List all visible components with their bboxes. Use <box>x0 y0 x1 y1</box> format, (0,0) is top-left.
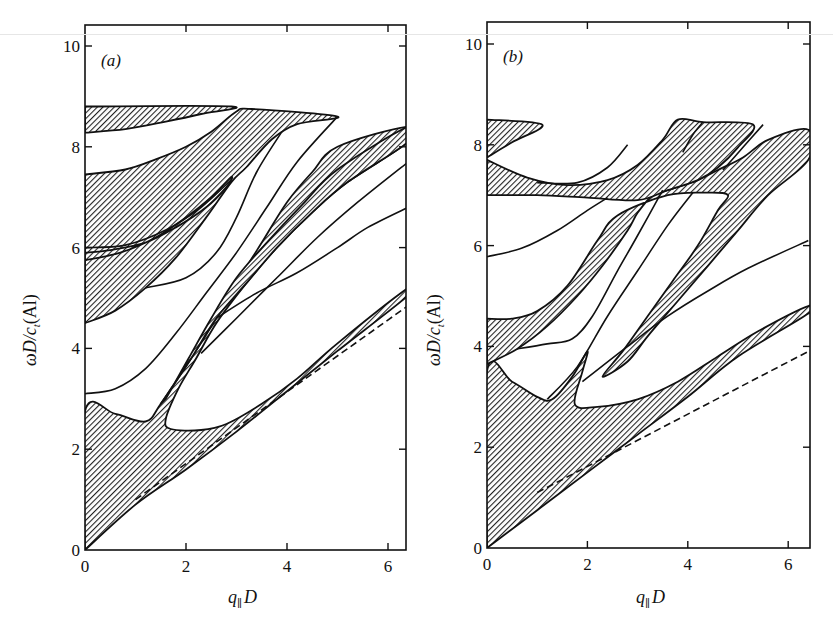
y-tick-label: 8 <box>474 136 483 155</box>
y-tick-label: 0 <box>72 541 81 560</box>
dispersion-curve <box>216 207 408 318</box>
y-tick-label: 6 <box>72 239 81 258</box>
y-tick-label: 2 <box>72 440 81 459</box>
panel-b-y-axis-label: ωD/ct(Al) <box>424 294 446 366</box>
x-tick-label: 4 <box>283 557 292 576</box>
dashed-bulk-line <box>136 306 409 500</box>
x-tick-label: 4 <box>684 555 693 574</box>
figure-svg: 02460246810 (a) q∥D ωD/ct(Al) 0246024681… <box>0 0 833 621</box>
x-tick-label: 0 <box>483 555 492 574</box>
x-tick-label: 2 <box>583 555 592 574</box>
panel-b: 02460246810 (b) q∥D ωD/ct(Al) <box>424 22 816 609</box>
panel-a: 02460246810 (a) q∥D ωD/ct(Al) <box>20 25 417 609</box>
hatched-region <box>487 120 543 158</box>
scan-artifact-line <box>0 34 833 35</box>
y-tick-label: 8 <box>72 138 81 157</box>
panel-a-x-axis-label: q∥D <box>228 587 257 609</box>
y-tick-label: 6 <box>474 237 483 256</box>
x-tick-label: 6 <box>784 555 793 574</box>
panel-a-plot-area <box>83 106 417 550</box>
y-tick-label: 0 <box>474 539 483 558</box>
y-tick-label: 4 <box>72 339 81 358</box>
panel-b-tag: (b) <box>503 47 523 66</box>
x-tick-label: 2 <box>182 557 191 576</box>
panel-a-y-axis-label: ωD/ct(Al) <box>20 294 42 366</box>
dispersion-curve <box>487 198 608 257</box>
panel-b-plot-area <box>485 119 816 548</box>
y-tick-label: 2 <box>474 438 483 457</box>
x-tick-label: 0 <box>81 557 90 576</box>
panel-a-tag: (a) <box>101 51 121 70</box>
y-tick-label: 4 <box>474 337 483 356</box>
y-tick-label: 10 <box>465 35 482 54</box>
hatched-region <box>485 305 816 548</box>
y-tick-label: 10 <box>63 37 80 56</box>
figure: 02460246810 (a) q∥D ωD/ct(Al) 0246024681… <box>0 0 833 621</box>
panel-b-x-axis-label: q∥D <box>636 587 665 609</box>
x-tick-label: 6 <box>384 557 393 576</box>
